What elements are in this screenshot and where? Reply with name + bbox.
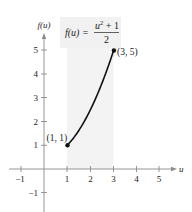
y-tick-label: −1 (28, 188, 38, 198)
x-tick-label: 1 (65, 174, 70, 184)
y-axis-label: f(u) (38, 20, 51, 30)
x-tick-label: 3 (111, 174, 116, 184)
x-tick-label: 2 (88, 174, 93, 184)
x-tick-label: 4 (134, 174, 139, 184)
y-tick-label: 4 (34, 69, 39, 79)
x-axis-arrow-icon (171, 167, 177, 171)
y-tick-label: 2 (34, 117, 39, 127)
svg-text:u2 + 1: u2 + 1 (95, 19, 119, 31)
svg-text:f(u) =: f(u) = (65, 27, 89, 39)
y-axis-arrow-icon (42, 33, 46, 39)
point-label-1-1: (1, 1) (47, 133, 68, 144)
point-label-3-5: (3, 5) (117, 47, 138, 58)
y-tick-label: 5 (34, 45, 39, 55)
x-tick-label: −1 (15, 174, 25, 184)
shaded-interval-region (67, 40, 114, 169)
endpoint-1-1 (65, 143, 69, 147)
x-tick-label: 5 (157, 174, 162, 184)
x-axis-label: u (179, 164, 184, 174)
svg-text:2: 2 (104, 34, 109, 45)
endpoint-3-5 (112, 48, 116, 52)
y-tick-label: 1 (34, 140, 39, 150)
y-tick-label: 3 (34, 93, 39, 103)
function-graph: −1 1 2 3 4 5 5 4 3 2 1 −1 u f(u) f(u) = … (0, 0, 192, 212)
